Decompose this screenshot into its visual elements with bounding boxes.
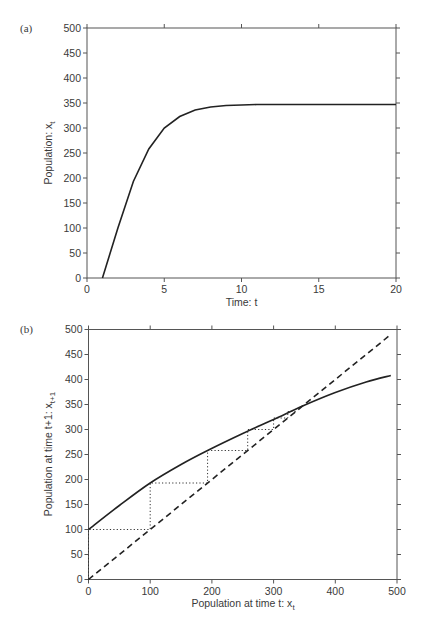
x-tick-label: 10 <box>236 283 248 295</box>
x-tick-label: 100 <box>141 585 159 597</box>
figure: (a) 050100150200250300350400450500 05101… <box>0 0 421 627</box>
y-tick-label: 200 <box>63 172 81 184</box>
y-tick-label: 50 <box>71 548 83 560</box>
y-axis-label-b: Population at time t+1: xt+1 <box>42 391 57 516</box>
y-axis-b: 050100150200250300350400450500 <box>65 323 401 585</box>
x-axis-label-b: Population at time t: xt <box>191 597 295 612</box>
x-axis-label-a: Time: t <box>226 296 258 308</box>
y-tick-label: 100 <box>65 523 83 535</box>
plot-frame-b <box>89 330 398 580</box>
y-tick-label: 450 <box>63 47 81 59</box>
y-axis-a: 050100150200250300350400450500 <box>63 22 400 284</box>
y-tick-label: 300 <box>63 122 81 134</box>
y-tick-label: 150 <box>63 197 81 209</box>
y-tick-label: 150 <box>65 498 83 510</box>
x-axis-b: 0100200300400500 <box>86 326 406 597</box>
y-tick-label: 400 <box>63 72 81 84</box>
x-tick-label: 200 <box>203 585 221 597</box>
x-tick-label: 300 <box>265 585 283 597</box>
y-tick-label: 250 <box>65 448 83 460</box>
recruitment-curve <box>89 376 391 530</box>
x-tick-label: 5 <box>161 283 167 295</box>
y-tick-label: 350 <box>65 398 83 410</box>
x-tick-label: 0 <box>86 585 92 597</box>
y-tick-label: 200 <box>65 473 83 485</box>
x-tick-label: 0 <box>84 283 90 295</box>
y-axis-label-a: Population: xt <box>42 121 57 185</box>
y-tick-label: 250 <box>63 147 81 159</box>
y-tick-label: 400 <box>65 373 83 385</box>
y-tick-label: 50 <box>69 247 81 259</box>
y-tick-label: 300 <box>65 423 83 435</box>
y-tick-label: 350 <box>63 97 81 109</box>
x-tick-label: 400 <box>327 585 345 597</box>
chart-panel-a: (a) 050100150200250300350400450500 05101… <box>20 22 402 309</box>
x-tick-label: 15 <box>313 283 325 295</box>
one-to-one-line <box>89 335 391 580</box>
panel-label-b: (b) <box>20 323 33 336</box>
panel-label-a: (a) <box>20 22 33 35</box>
chart-panel-b: (b) 050100150200250300350400450500 01002… <box>20 323 406 612</box>
y-tick-label: 500 <box>65 323 83 335</box>
y-tick-label: 100 <box>63 222 81 234</box>
y-tick-label: 500 <box>63 22 81 34</box>
x-axis-a: 05101520 <box>84 24 402 295</box>
y-tick-label: 0 <box>77 573 83 585</box>
plot-frame-a <box>87 28 396 278</box>
y-tick-label: 0 <box>75 272 81 284</box>
population-line <box>102 105 396 279</box>
y-tick-label: 450 <box>65 348 83 360</box>
x-tick-label: 20 <box>390 283 402 295</box>
x-tick-label: 500 <box>388 585 406 597</box>
